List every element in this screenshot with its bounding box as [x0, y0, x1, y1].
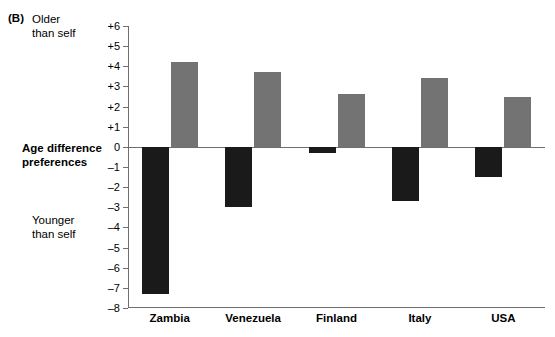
y-tick-mark: [123, 227, 128, 228]
y-tick-mark: [123, 248, 128, 249]
y-axis-line: [128, 26, 129, 308]
y-tick-label: +6: [107, 20, 120, 32]
bar-finland-older: [338, 94, 365, 146]
annotation-younger-line2: than self: [32, 227, 75, 241]
y-tick-mark: [123, 288, 128, 289]
bar-italy-older: [421, 78, 448, 146]
bar-venezuela-older: [254, 72, 281, 147]
y-axis-title-line2: preferences: [22, 155, 102, 169]
x-axis-label-usa: USA: [491, 312, 515, 324]
bar-zambia-older: [171, 62, 198, 147]
bar-usa-younger: [475, 147, 502, 177]
y-tick-label: –3: [108, 201, 120, 213]
x-axis-label-finland: Finland: [316, 312, 357, 324]
y-tick-label: –1: [108, 161, 120, 173]
y-tick-mark: [123, 46, 128, 47]
bar-zambia-younger: [142, 147, 169, 294]
y-tick-mark: [123, 187, 128, 188]
y-tick-mark: [123, 66, 128, 67]
y-tick-label: –2: [108, 181, 120, 193]
y-tick-label: –8: [108, 302, 120, 314]
y-tick-label: –7: [108, 282, 120, 294]
y-tick-label: +4: [107, 60, 120, 72]
bar-usa-older: [504, 97, 531, 147]
bar-italy-younger: [392, 147, 419, 201]
y-tick-mark: [123, 26, 128, 27]
y-tick-label: +5: [107, 40, 120, 52]
x-axis-label-venezuela: Venezuela: [225, 312, 281, 324]
y-tick-mark: [123, 207, 128, 208]
y-tick-label: +1: [107, 121, 120, 133]
y-tick-label: 0: [114, 141, 120, 153]
y-tick-label: –5: [108, 242, 120, 254]
bar-finland-younger: [309, 147, 336, 153]
panel-letter: (B): [8, 12, 24, 24]
annotation-older-line2: than self: [32, 26, 75, 40]
x-axis-line: [128, 307, 545, 308]
plot-area: +6+5+4+3+2+10–1–2–3–4–5–6–7–8 ZambiaVene…: [128, 26, 545, 308]
bar-venezuela-younger: [225, 147, 252, 207]
y-tick-label: +3: [107, 80, 120, 92]
x-axis-label-zambia: Zambia: [150, 312, 190, 324]
y-tick-mark: [123, 107, 128, 108]
y-axis-title: Age difference preferences: [22, 141, 102, 169]
y-tick-mark: [123, 268, 128, 269]
y-tick-label: +2: [107, 101, 120, 113]
chart-panel: (B) Older than self Younger than self Ag…: [0, 0, 555, 337]
y-tick-mark: [123, 308, 128, 309]
y-tick-mark: [123, 167, 128, 168]
annotation-younger-than-self: Younger than self: [32, 213, 75, 241]
y-tick-label: –6: [108, 262, 120, 274]
annotation-younger-line1: Younger: [32, 213, 75, 227]
annotation-older-than-self: Older than self: [32, 12, 75, 40]
y-axis-title-line1: Age difference: [22, 141, 102, 155]
x-axis-label-italy: Italy: [408, 312, 431, 324]
y-tick-mark: [123, 127, 128, 128]
y-tick-label: –4: [108, 221, 120, 233]
annotation-older-line1: Older: [32, 12, 75, 26]
y-tick-mark: [123, 86, 128, 87]
